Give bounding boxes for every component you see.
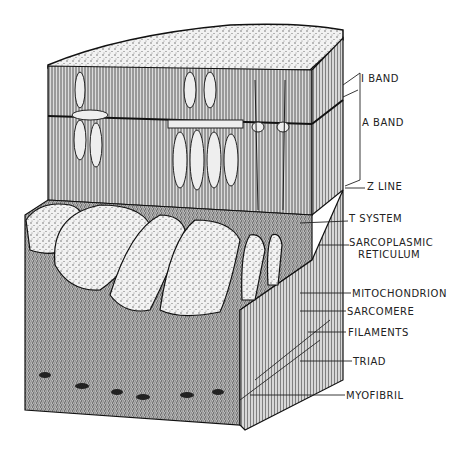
label-mitochondrion: MITOCHONDRION [352,288,447,299]
label-reticulum: RETICULUM [358,249,420,260]
fiber-top-surface [48,24,343,70]
fiber-side-face-upper [312,38,343,215]
label-sarcomere: SARCOMERE [347,306,414,317]
label-z-line: Z LINE [367,181,402,192]
muscle-fiber-illustration [0,0,467,451]
label-triad: TRIAD [353,356,386,367]
label-myofibril: MYOFIBRIL [346,390,404,401]
label-t-system: T SYSTEM [349,213,402,224]
label-filaments: FILAMENTS [348,327,409,338]
label-i-band: I BAND [361,73,399,84]
label-a-band: A BAND [362,117,404,128]
label-sarcoplasmic: SARCOPLASMIC [349,237,433,248]
